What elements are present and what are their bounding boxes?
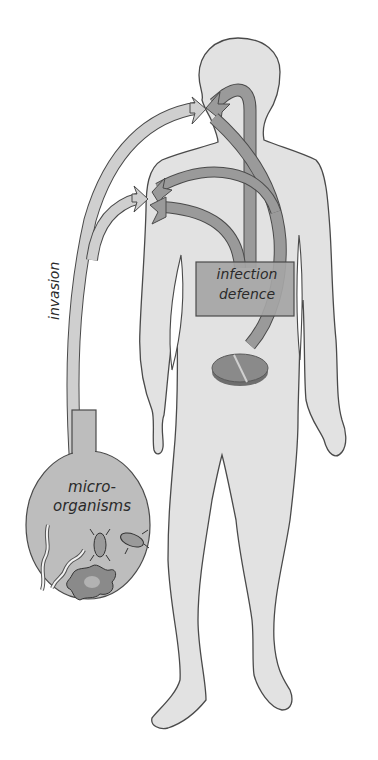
infection-label-line1: infection xyxy=(204,264,290,284)
microorganisms-label: micro- organisms xyxy=(42,478,142,516)
tablet-icon xyxy=(212,354,268,386)
invasion-label: invasion xyxy=(46,262,62,320)
micro-label-line2: organisms xyxy=(42,497,142,516)
micro-label-line1: micro- xyxy=(42,478,142,497)
infection-diagram xyxy=(0,0,378,760)
infection-defence-label: infection defence xyxy=(204,264,290,304)
infection-label-line2: defence xyxy=(204,284,290,304)
